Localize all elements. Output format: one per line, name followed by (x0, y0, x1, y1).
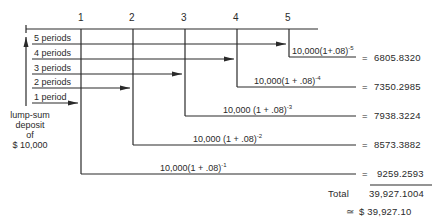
period-label-2: 2 periods (34, 77, 71, 87)
tick-4: 4 (233, 13, 239, 23)
value-2: 8573.3882 (374, 140, 421, 150)
period-label-3: 3 periods (34, 63, 71, 73)
value-3: 7938.3224 (374, 111, 421, 121)
rounded-total: $ 39,927.10 (359, 207, 411, 217)
tick-3: 3 (181, 13, 187, 23)
tick-1: 1 (78, 13, 84, 23)
period-label-4: 4 periods (34, 48, 71, 58)
term-expr-1: 10,000(1 + .08)-1 (160, 163, 227, 173)
period-label-5: 5 periods (34, 33, 71, 43)
equals-5: = (362, 53, 368, 63)
equals-1: = (362, 169, 368, 179)
deposit-line-3: of (0, 130, 60, 140)
deposit-line-4: $ 10,000 (0, 140, 60, 150)
period-label-1: 1 period (34, 92, 67, 102)
equals-2: = (362, 140, 368, 150)
total-label: Total (328, 189, 349, 199)
equals-4: = (362, 82, 368, 92)
value-4: 7350.2985 (374, 82, 421, 92)
tick-2: 2 (129, 13, 135, 23)
deposit-line-2: deposit (0, 120, 60, 130)
term-expr-5: 10,000(1+.08)-5 (292, 46, 354, 56)
term-expr-3: 10,000 (1 + .08)-3 (223, 105, 292, 115)
term-expr-4: 10,000(1 + .08)-4 (254, 76, 321, 86)
tick-5: 5 (285, 13, 291, 23)
term-expr-2: 10,000 (1 + .08)-2 (193, 134, 262, 144)
value-1: 9259.2593 (377, 169, 424, 179)
deposit-line-1: lump-sum (0, 110, 60, 120)
equals-3: = (362, 111, 368, 121)
approx-symbol: ≃ (346, 207, 354, 217)
value-5: 6805.8320 (374, 53, 421, 63)
deposit-label: lump-sum deposit of $ 10,000 (0, 110, 60, 150)
total-value: 39,927.1004 (369, 189, 424, 199)
